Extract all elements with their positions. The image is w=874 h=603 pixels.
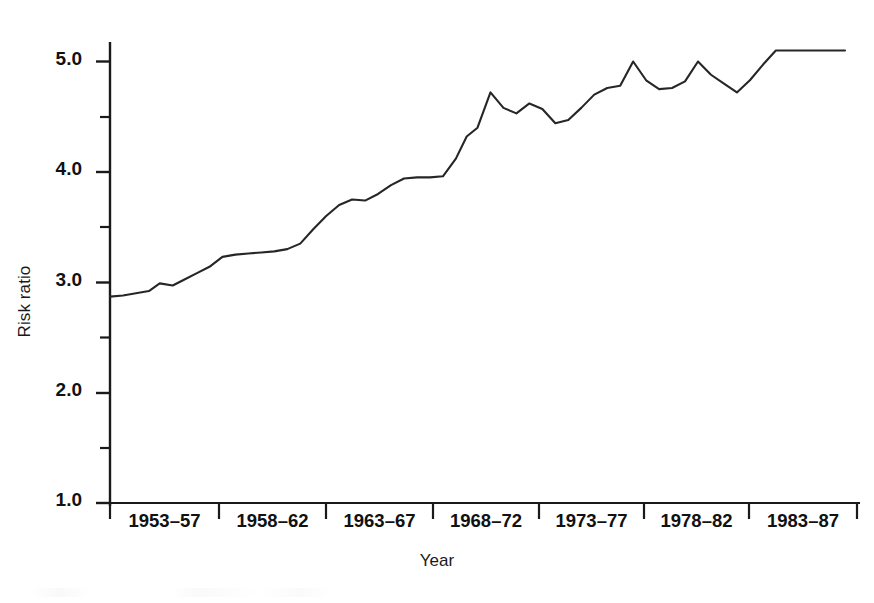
- y-axis-major-ticks: [96, 62, 110, 504]
- x-tick-label-1973-77: 1973–77: [539, 510, 644, 532]
- x-tick-label-1978-82: 1978–82: [644, 510, 749, 532]
- y-axis-title-wrap: Risk ratio: [0, 0, 40, 603]
- x-tick-label-1963-67: 1963–67: [326, 510, 433, 532]
- x-tick-label-1968-72: 1968–72: [433, 510, 539, 532]
- chart-figure: 5.0 4.0 3.0 2.0 1.0 1953–57 1958–62 1963…: [0, 0, 874, 603]
- x-axis-title: Year: [0, 551, 874, 571]
- y-axis-title: Risk ratio: [8, 0, 42, 603]
- x-tick-label-1958-62: 1958–62: [219, 510, 326, 532]
- risk-ratio-line: [110, 50, 845, 296]
- x-tick-label-1983-87: 1983–87: [749, 510, 857, 532]
- x-tick-label-1953-57: 1953–57: [110, 510, 219, 532]
